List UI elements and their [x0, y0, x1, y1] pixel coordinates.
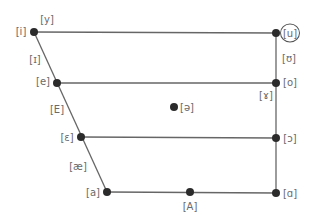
label-near-close-back: [ʊ] — [282, 54, 296, 64]
dot-i — [30, 28, 38, 36]
label-E: [E] — [50, 105, 64, 115]
label-ram-horn: [ɤ] — [259, 91, 273, 101]
label-open-o: [ɔ] — [283, 134, 296, 144]
vowel-chart — [0, 0, 317, 223]
dot-e — [53, 79, 61, 87]
label-a: [a] — [86, 188, 100, 198]
label-e: [e] — [36, 77, 50, 87]
dot-script-a — [272, 189, 280, 197]
dot-open-o — [272, 134, 280, 142]
label-schwa: [ə] — [180, 103, 194, 113]
dot-a — [103, 188, 111, 196]
dot-schwa — [170, 103, 178, 111]
label-script-a: [ɑ] — [283, 189, 297, 199]
dot-A — [186, 188, 194, 196]
close-line — [34, 32, 276, 33]
dot-open-e — [77, 133, 85, 141]
dot-o — [272, 79, 280, 87]
label-A: [A] — [183, 202, 198, 212]
label-open-e: [ɛ] — [60, 133, 73, 143]
label-ae: [æ] — [69, 162, 87, 172]
label-i: [i] — [16, 27, 27, 37]
label-u-circled: [u] — [280, 24, 300, 43]
label-y: [y] — [40, 15, 54, 25]
dot-u — [272, 29, 280, 37]
label-o: [o] — [283, 78, 297, 88]
label-near-close-front: [ɪ] — [29, 55, 41, 65]
open-mid-line — [81, 137, 276, 138]
